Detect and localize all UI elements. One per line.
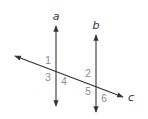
angle-2-label: 2 [85,68,91,79]
angle-6-label: 6 [101,93,107,104]
angle-3-label: 3 [45,72,51,83]
angle-5-label: 5 [85,86,91,97]
transversal-c [15,56,123,97]
line-a-label: a [53,10,60,23]
line-c-label: c [128,91,134,104]
diagram-canvas: a b c 1 2 3 4 5 6 [0,0,148,119]
line-b-label: b [93,19,100,32]
angle-1-label: 1 [45,55,51,66]
angle-4-label: 4 [61,76,67,87]
